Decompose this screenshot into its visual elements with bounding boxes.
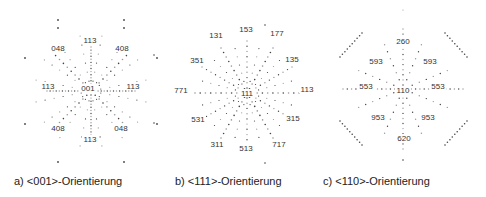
pole-dot xyxy=(402,74,403,75)
pole-dot xyxy=(372,76,373,77)
pole-dot xyxy=(415,58,416,59)
pole-dot xyxy=(418,51,419,52)
pole-dot xyxy=(458,88,459,89)
pole-dot xyxy=(402,64,403,65)
pole-dot xyxy=(361,144,363,146)
miller-index-label: 110 xyxy=(397,86,410,95)
pole-dot xyxy=(356,139,358,141)
caption-b: b) <111>-Orientierung xyxy=(175,175,282,187)
pole-dot xyxy=(402,123,403,124)
pole-dot xyxy=(359,35,361,37)
pole-dot xyxy=(393,92,394,93)
pole-dot xyxy=(424,88,425,89)
pole-dot xyxy=(351,43,353,45)
pole-dot xyxy=(349,46,351,48)
pole-dot xyxy=(418,126,419,127)
pole-dot xyxy=(415,88,416,89)
pole-dot xyxy=(412,92,413,93)
pole-dot xyxy=(377,88,378,89)
pole-dot xyxy=(381,88,382,89)
pole-dot xyxy=(419,88,420,89)
pole-dot xyxy=(384,44,385,45)
pole-dot xyxy=(412,112,413,113)
pole-dot xyxy=(390,58,391,59)
pole-dot xyxy=(402,33,403,34)
pole-dot xyxy=(402,59,403,60)
pole-dot xyxy=(386,82,387,83)
pole-dot xyxy=(402,49,403,50)
pole-dot xyxy=(355,88,356,89)
pole-dot xyxy=(444,144,446,146)
pole-dot xyxy=(452,40,454,42)
pole-dot xyxy=(386,95,387,96)
pole-dot xyxy=(387,51,388,52)
pole-dot xyxy=(402,79,403,80)
miller-index-label: 953 xyxy=(371,113,385,122)
pole-dot xyxy=(354,136,356,138)
pole-dot xyxy=(344,51,346,53)
pole-dot xyxy=(351,88,352,89)
miller-index-label: 953 xyxy=(421,113,435,122)
pole-dot xyxy=(440,73,441,74)
pole-dot xyxy=(358,70,359,71)
pole-dot xyxy=(399,79,400,80)
pole-dot xyxy=(365,104,366,105)
pole-dot xyxy=(456,131,458,133)
pole-dot xyxy=(402,148,403,149)
pole-dot xyxy=(365,73,366,74)
miller-index-label: 593 xyxy=(423,57,437,66)
pole-dot xyxy=(406,98,407,99)
caption-c: c) <110>-Orientierung xyxy=(323,175,430,187)
pole-dot xyxy=(454,88,455,89)
pole-dot xyxy=(358,107,359,108)
pole-dot xyxy=(409,72,410,73)
pole-dot xyxy=(361,32,363,34)
miller-index-label: 620 xyxy=(397,134,411,143)
pole-dot xyxy=(419,82,420,83)
pole-dot xyxy=(393,85,394,86)
pole-dot xyxy=(402,113,403,114)
pole-dot xyxy=(402,28,403,29)
pole-dot xyxy=(351,134,353,136)
pole-dot xyxy=(409,105,410,106)
pole-dot xyxy=(379,79,380,80)
caption-a: a) <001>-Orientierung xyxy=(14,175,122,187)
pole-dot xyxy=(349,131,351,133)
pole-dot xyxy=(344,126,346,128)
pole-dot xyxy=(440,104,441,105)
pole-dot xyxy=(433,101,434,102)
pole-dot xyxy=(447,70,448,71)
pole-dot xyxy=(454,134,456,136)
pole-dot xyxy=(412,85,413,86)
pole-dot xyxy=(447,142,449,144)
pole-dot xyxy=(387,126,388,127)
pole-dot xyxy=(354,40,356,42)
pole-dot xyxy=(449,139,451,141)
pole-dot xyxy=(461,126,463,128)
pole-dot xyxy=(419,95,420,96)
miller-index-label: 553 xyxy=(431,82,445,91)
pole-dot xyxy=(449,88,450,89)
pole-dot xyxy=(396,105,397,106)
pole-dot xyxy=(402,54,403,55)
pole-dot xyxy=(461,51,463,53)
pole-dot xyxy=(459,128,461,130)
pole-dot xyxy=(464,123,466,125)
pole-dot xyxy=(342,54,344,56)
pole-dot xyxy=(402,143,403,144)
pole-figure-c: 260593593553110553953953620 xyxy=(0,0,486,170)
pole-dot xyxy=(452,136,454,138)
pole-dot xyxy=(396,72,397,73)
pole-dot xyxy=(462,88,463,89)
pole-dot xyxy=(342,123,344,125)
pole-dot xyxy=(426,79,427,80)
pole-dot xyxy=(466,120,468,122)
pole-dot xyxy=(402,103,403,104)
pole-dot xyxy=(385,88,386,89)
pole-dot xyxy=(444,32,446,34)
pole-dot xyxy=(384,133,385,134)
pole-dot xyxy=(406,79,407,80)
pole-dot xyxy=(449,38,451,40)
pole-dot xyxy=(421,133,422,134)
pole-dot xyxy=(390,88,391,89)
